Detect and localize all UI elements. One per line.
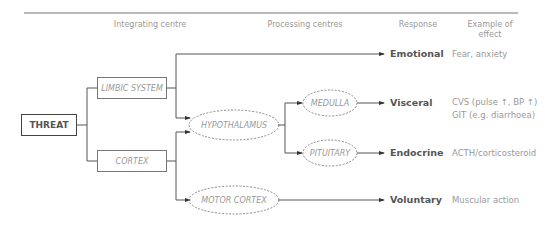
- effect-visceral-1: CVS (pulse ↑, BP ↑): [452, 96, 537, 109]
- node-hypothalamus: HYPOTHALAMUS: [189, 118, 279, 132]
- effect-emotional: Fear, anxiety: [452, 48, 507, 61]
- effect-voluntary: Muscular action: [452, 194, 519, 207]
- response-visceral: Visceral: [390, 97, 433, 108]
- node-pituitary: PITUITARY: [303, 146, 357, 160]
- response-voluntary: Voluntary: [390, 194, 442, 205]
- effect-endocrine: ACTH/corticosteroid: [452, 147, 536, 160]
- response-endocrine: Endocrine: [390, 147, 443, 158]
- header-integrating: Integrating centre: [90, 20, 210, 30]
- node-threat: THREAT: [21, 114, 77, 136]
- node-motor-cortex: MOTOR CORTEX: [189, 193, 279, 207]
- header-response: Response: [388, 20, 448, 30]
- node-limbic-system: LIMBIC SYSTEM: [97, 77, 167, 99]
- header-effect: Example of effect: [460, 20, 520, 40]
- header-processing: Processing centres: [245, 20, 365, 30]
- effect-visceral-2: GIT (e.g. diarrhoea): [452, 109, 535, 122]
- node-cortex: CORTEX: [97, 150, 167, 172]
- node-medulla: MEDULLA: [303, 96, 357, 110]
- response-emotional: Emotional: [390, 48, 444, 59]
